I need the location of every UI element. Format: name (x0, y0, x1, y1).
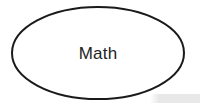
node-label: Math (0, 44, 196, 64)
diagram-canvas: Math (0, 0, 200, 111)
